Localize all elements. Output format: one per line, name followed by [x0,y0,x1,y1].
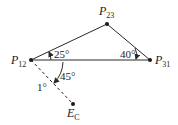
angle-label-25: 25° [54,48,69,60]
label-p31: P31 [154,53,170,69]
angle-arc-25 [49,52,51,60]
label-p23: P23 [98,4,114,20]
triangle-diagram: P12 P23 P31 EC 25° 40° 45° 1° [0,0,178,125]
angle-label-40: 40° [120,48,135,60]
label-p12: P12 [10,53,26,69]
point-p12-dot [29,58,33,62]
label-ec: EC [66,106,80,122]
angle-label-1: 1° [37,81,47,93]
angle-label-45: 45° [60,70,75,82]
point-p31-dot [148,58,152,62]
diagram-canvas: P12 P23 P31 EC 25° 40° 45° 1° [0,0,178,125]
point-p23-dot [105,22,109,26]
